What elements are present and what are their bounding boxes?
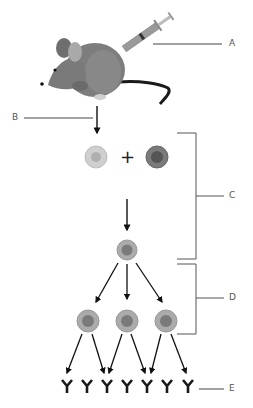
- b-cell-icon: [85, 146, 107, 168]
- syringe-icon: [121, 10, 176, 54]
- diagram-canvas: [0, 0, 253, 408]
- bracket-d: [177, 264, 224, 334]
- label-a: A: [229, 38, 235, 48]
- antibody-icon: [162, 380, 172, 393]
- plus-sign: +: [120, 148, 135, 166]
- antibody-icon: [142, 380, 152, 393]
- myeloma-cell-icon: [146, 146, 168, 168]
- label-e: E: [229, 383, 235, 393]
- clone-cell-icon: [155, 310, 177, 332]
- label-b: B: [12, 112, 18, 122]
- clone-cell-icon: [77, 310, 99, 332]
- arrows-to-antibodies: [67, 334, 186, 373]
- arrow-clone-1: [96, 263, 118, 302]
- antibody-icon: [62, 380, 72, 393]
- antibody-icon: [183, 380, 193, 393]
- antibody-icon: [122, 380, 132, 393]
- label-d: D: [229, 292, 236, 302]
- antibodies: [62, 380, 193, 393]
- label-c: C: [229, 190, 235, 200]
- clone-cell-icon: [116, 310, 138, 332]
- mouse-tail: [118, 81, 169, 104]
- antibody-icon: [102, 380, 112, 393]
- antibody-icon: [82, 380, 92, 393]
- mouse-icon: [40, 38, 169, 104]
- bracket-c: [177, 133, 224, 259]
- arrow-clone-3: [136, 263, 162, 302]
- hybridoma-cell-icon: [117, 240, 137, 260]
